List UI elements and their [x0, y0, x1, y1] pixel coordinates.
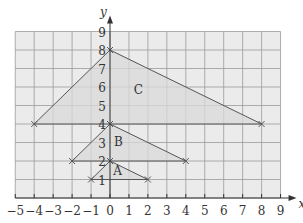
x-tick-label: 5 [201, 204, 209, 218]
x-axis-label: x [299, 197, 303, 211]
x-tick-label: −3 [44, 204, 62, 218]
x-tick-label: 7 [239, 204, 247, 218]
y-axis-label: y [99, 5, 107, 19]
x-tick-label: −4 [25, 204, 43, 218]
x-tick-label: 9 [277, 204, 285, 218]
x-tick-label: 8 [258, 204, 266, 218]
x-tick-label: −1 [82, 204, 100, 218]
x-tick-label: −2 [63, 204, 81, 218]
y-tick-label: 5 [98, 100, 106, 114]
y-tick-label: 1 [98, 174, 106, 188]
y-tick-label: 8 [98, 44, 106, 58]
y-axis-arrow-icon [107, 16, 113, 24]
x-tick-label: 0 [106, 204, 114, 218]
x-tick-label: 6 [220, 204, 228, 218]
shape-label-b: B [114, 135, 123, 149]
y-tick-label: 7 [98, 63, 106, 77]
x-tick-label: 1 [125, 204, 133, 218]
x-tick-label: 2 [144, 204, 152, 218]
x-tick-label: −5 [6, 204, 24, 218]
y-tick-label: 3 [98, 137, 106, 151]
x-axis-arrow-icon [289, 195, 297, 201]
shape-label-c: C [134, 83, 143, 97]
coordinate-grid-diagram: ABC xy −5−4−3−2−10123456789123456789 [0, 0, 303, 223]
shape-label-a: A [112, 164, 122, 178]
y-tick-label: 4 [98, 118, 106, 132]
x-tick-label: 4 [182, 204, 190, 218]
y-tick-label: 2 [98, 155, 106, 169]
y-tick-label: 6 [98, 81, 106, 95]
x-tick-label: 3 [163, 204, 171, 218]
y-tick-label: 9 [98, 26, 106, 40]
